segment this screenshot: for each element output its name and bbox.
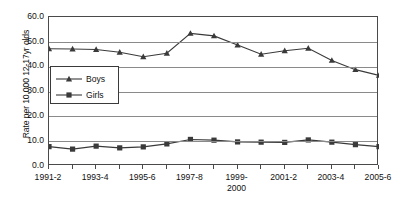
data-point-marker xyxy=(141,144,146,149)
x-tick xyxy=(378,165,379,169)
legend-item-girls: Girls xyxy=(54,88,118,103)
legend-label: Boys xyxy=(86,74,105,84)
x-tick xyxy=(72,165,73,169)
data-point-marker xyxy=(117,145,122,150)
x-tick xyxy=(189,165,190,169)
data-point-marker xyxy=(305,45,311,51)
series-girls xyxy=(49,137,379,152)
x-tick xyxy=(260,165,261,169)
data-point-marker xyxy=(329,57,335,63)
x-tick xyxy=(166,165,167,169)
chart-legend: BoysGirls xyxy=(50,66,119,104)
data-point-marker xyxy=(70,147,75,152)
x-tick xyxy=(48,165,49,169)
x-tick xyxy=(307,165,308,169)
legend-marker-triangle-icon xyxy=(54,72,84,86)
x-tick xyxy=(213,165,214,169)
x-tick xyxy=(354,165,355,169)
data-point-marker xyxy=(376,144,379,149)
gridline xyxy=(49,141,377,142)
x-tick xyxy=(237,165,238,169)
y-tick-label: 30.0 xyxy=(10,86,44,95)
y-tick-label: 10.0 xyxy=(10,136,44,145)
data-point-marker xyxy=(66,92,71,97)
x-tick xyxy=(119,165,120,169)
data-point-marker xyxy=(353,142,358,147)
x-tick xyxy=(331,165,332,169)
data-point-marker xyxy=(94,144,99,149)
y-tick-label: 20.0 xyxy=(10,111,44,120)
data-point-marker xyxy=(187,30,193,36)
y-tick-label: 50.0 xyxy=(10,37,44,46)
legend-marker-square-icon xyxy=(54,88,84,102)
x-tick-label: 2005-6 xyxy=(350,172,403,183)
y-tick-label: 40.0 xyxy=(10,61,44,70)
x-tick xyxy=(95,165,96,169)
gridline xyxy=(49,42,377,43)
chart-figure: Rate per 10,000 12-17yr olds 60.050.040.… xyxy=(0,0,403,206)
x-tick xyxy=(284,165,285,169)
x-tick xyxy=(142,165,143,169)
gridline xyxy=(49,116,377,117)
y-tick-label: 60.0 xyxy=(10,12,44,21)
x-axis-tick-labels: 1991-21993-41995-61997-81999-20002001-22… xyxy=(0,172,403,206)
data-point-marker xyxy=(49,144,52,149)
y-tick-label: 0.0 xyxy=(10,161,44,170)
legend-item-boys: Boys xyxy=(54,72,118,87)
x-axis-ticks xyxy=(48,165,378,170)
legend-label: Girls xyxy=(86,90,104,100)
